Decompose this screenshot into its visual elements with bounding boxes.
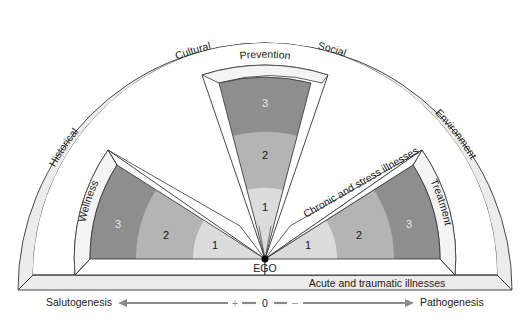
pathogenesis-label: Pathogenesis bbox=[420, 296, 484, 308]
wellness-level-3-label: 3 bbox=[115, 218, 121, 230]
base-band-label: Acute and traumatic illnesses bbox=[309, 277, 446, 289]
prevention-level-2-label: 2 bbox=[262, 149, 268, 161]
wellness-level-1-label: 1 bbox=[212, 239, 218, 251]
wellness-level-2-label: 2 bbox=[163, 229, 169, 241]
zero-label: 0 bbox=[262, 297, 268, 309]
plus-sign: + bbox=[232, 297, 238, 309]
minus-sign: – bbox=[292, 296, 298, 308]
left-arrowhead-icon bbox=[118, 299, 127, 307]
treatment-level-3-label: 3 bbox=[406, 218, 412, 230]
right-arrowhead-icon bbox=[405, 299, 414, 307]
salutogenesis-label: Salutogenesis bbox=[46, 296, 112, 308]
prevention-label: Prevention bbox=[239, 48, 291, 62]
prevention-level-3-label: 3 bbox=[262, 97, 268, 109]
health-model-diagram: Historical Cultural Social Environment P… bbox=[0, 0, 528, 334]
treatment-level-1-label: 1 bbox=[305, 239, 311, 251]
treatment-level-2-label: 2 bbox=[356, 229, 362, 241]
prevention-level-1-label: 1 bbox=[262, 201, 268, 213]
ego-label: EGO bbox=[253, 262, 276, 274]
